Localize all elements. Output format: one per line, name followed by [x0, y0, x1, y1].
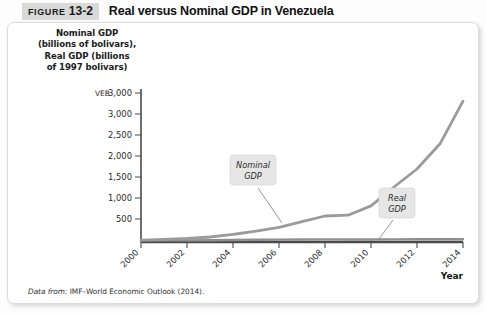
x-tick-label-2012: 2012 — [394, 247, 416, 269]
y-tick-label-1000: 1,000 — [108, 193, 132, 203]
y-tick-label-3000: 3,000 — [108, 109, 132, 119]
nominal-gdp-callout-line-1: Nominal — [236, 160, 271, 170]
series-line-nominal-gdp — [141, 101, 463, 240]
x-tick-label-2004: 2004 — [210, 247, 232, 269]
real-gdp-leader-line — [379, 220, 393, 239]
y-tick-label-2000: 2,000 — [108, 151, 132, 161]
x-tick-label-2006: 2006 — [256, 247, 278, 269]
figure-badge-word: FIGURE — [28, 7, 66, 17]
x-tick-label-2008: 2008 — [302, 247, 324, 269]
x-tick-label-2010: 2010 — [348, 247, 370, 269]
figure-header: FIGURE 13-2 Real versus Nominal GDP in V… — [22, 2, 333, 20]
figure-title: Real versus Nominal GDP in Venezuela — [109, 4, 334, 18]
chart-panel: Nominal GDP (billions of bolivars), Real… — [7, 22, 479, 304]
y-tick-label-500: 500 — [116, 214, 132, 224]
real-gdp-callout-line-2: GDP — [388, 204, 406, 214]
real-gdp-callout-line-1: Real — [388, 193, 407, 203]
figure-badge-number: 13-2 — [69, 4, 93, 18]
y-axis-ticks — [135, 93, 141, 219]
nominal-gdp-annotation: Nominal GDP — [230, 155, 282, 223]
y-tick-label-2500: 2,500 — [108, 130, 132, 140]
source-note-prefix: Data from: — [28, 287, 67, 296]
x-tick-label-2014: 2014 — [440, 247, 462, 269]
source-note: Data from: IMF–World Economic Outlook (2… — [28, 287, 204, 296]
source-note-text: IMF–World Economic Outlook (2014). — [70, 287, 205, 296]
real-gdp-annotation: Real GDP — [379, 188, 415, 239]
figure-number-badge: FIGURE 13-2 — [22, 3, 99, 20]
x-axis-label: Year — [440, 271, 464, 281]
nominal-gdp-leader-line — [258, 188, 282, 223]
x-tick-label-2000: 2000 — [118, 247, 140, 269]
nominal-gdp-callout-line-2: GDP — [244, 171, 262, 181]
y-tick-label-3500: 3,000 — [108, 88, 132, 98]
y-tick-label-1500: 1,500 — [108, 172, 132, 182]
x-tick-label-2002: 2002 — [164, 247, 186, 269]
chart-plot-area: VEB 3,000 3,000 2,500 2,000 1,500 1,000 … — [8, 23, 478, 303]
figure-container: FIGURE 13-2 Real versus Nominal GDP in V… — [0, 0, 486, 313]
